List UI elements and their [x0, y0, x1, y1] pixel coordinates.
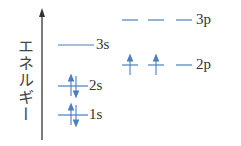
level-3s-label: 3s — [96, 37, 109, 52]
level-2p-label: 2p — [196, 57, 211, 72]
energy-axis-arrow — [39, 8, 45, 140]
level-1s-label: 1s — [89, 107, 102, 122]
level-2s-label: 2s — [89, 78, 102, 93]
level-3p-label: 3p — [196, 12, 211, 27]
energy-axis-label: エネルギー — [12, 38, 36, 123]
